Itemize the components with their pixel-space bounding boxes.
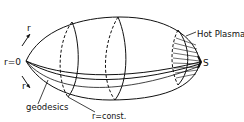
r-const-ring-1-back	[60, 22, 72, 97]
s-point-label: S	[203, 58, 209, 68]
ellipsoid-outline	[26, 17, 200, 100]
hot-plasma-label: Hot Plasma	[197, 29, 244, 39]
r-bottom-label: r	[22, 81, 26, 91]
origin-label: r=0	[4, 57, 21, 67]
r-const-ring-2-front	[115, 17, 126, 100]
hot-plasma-leader	[186, 32, 196, 36]
geodesics-leader	[38, 80, 48, 104]
geodesics-label: geodesics	[26, 102, 69, 112]
r-const-label: r=const.	[92, 112, 126, 121]
diagram-canvas: r r r=0 geodesics r=const. Hot Plasma S	[0, 0, 244, 122]
r-top-label: r	[27, 23, 31, 33]
geodesic-line-2	[26, 61, 200, 80]
